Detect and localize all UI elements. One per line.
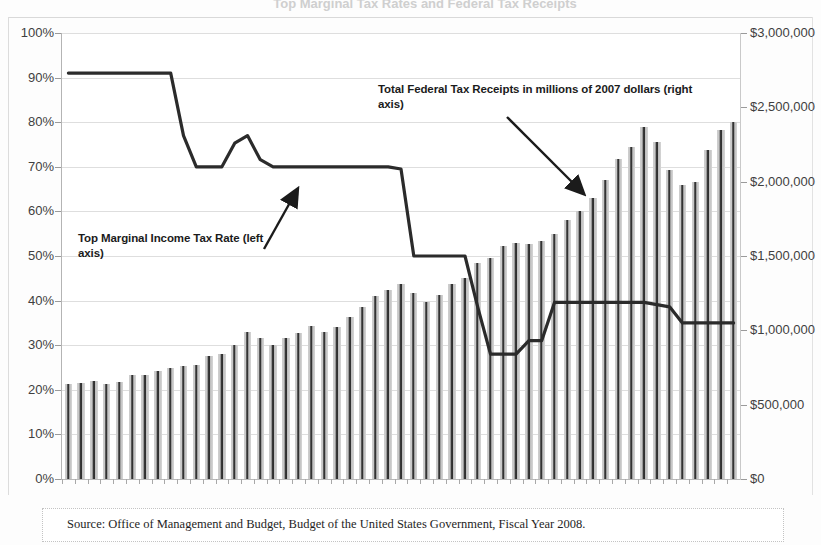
left-axis-tick (55, 345, 61, 346)
x-axis-tick (650, 479, 651, 484)
x-axis-tick (561, 479, 562, 484)
x-axis-tick (663, 479, 664, 484)
left-axis-tick-label: 30% (2, 337, 54, 352)
x-axis-tick (586, 479, 587, 484)
x-axis-tick (420, 479, 421, 484)
annotation-receipts: Total Federal Tax Receipts in millions o… (378, 82, 698, 112)
x-axis-tick (139, 479, 140, 484)
x-axis-tick (267, 479, 268, 484)
x-axis-tick (241, 479, 242, 484)
x-axis-tick (343, 479, 344, 484)
right-axis-tick-label: $0 (750, 471, 764, 486)
x-axis-tick (164, 479, 165, 484)
annotation-rate: Top Marginal Income Tax Rate (left axis) (78, 231, 278, 261)
left-axis-tick (55, 390, 61, 391)
left-axis-tick-label: 50% (2, 248, 54, 263)
x-axis-tick (331, 479, 332, 484)
left-axis-tick (55, 33, 61, 34)
left-axis-tick (55, 211, 61, 212)
x-axis-tick (369, 479, 370, 484)
left-axis-tick-label: 0% (2, 471, 54, 486)
right-axis-tick-label: $3,000,000 (750, 25, 815, 40)
left-axis-tick-label: 90% (2, 70, 54, 85)
left-axis-tick-label: 10% (2, 426, 54, 441)
right-axis-tick (741, 182, 747, 183)
x-axis-tick (203, 479, 204, 484)
left-axis-tick (55, 78, 61, 79)
x-axis-tick (702, 479, 703, 484)
x-axis-tick (625, 479, 626, 484)
x-axis-tick (88, 479, 89, 484)
x-axis-tick (254, 479, 255, 484)
x-axis-tick (100, 479, 101, 484)
x-axis-tick (510, 479, 511, 484)
x-axis-tick (75, 479, 76, 484)
left-axis-tick (55, 122, 61, 123)
x-axis-tick (318, 479, 319, 484)
left-axis-tick-label: 80% (2, 114, 54, 129)
right-axis-tick (741, 33, 747, 34)
x-axis-tick (497, 479, 498, 484)
left-axis-tick-label: 70% (2, 159, 54, 174)
x-axis-tick (382, 479, 383, 484)
left-axis-tick-label: 100% (2, 25, 54, 40)
x-axis-tick (714, 479, 715, 484)
x-axis-tick (62, 479, 63, 484)
x-axis-tick (612, 479, 613, 484)
x-axis-tick (228, 479, 229, 484)
x-axis-tick (279, 479, 280, 484)
right-axis-tick-label: $500,000 (750, 397, 804, 412)
right-axis-tick (741, 405, 747, 406)
x-axis-tick (459, 479, 460, 484)
x-axis-tick (305, 479, 306, 484)
x-axis-tick (638, 479, 639, 484)
left-axis-tick (55, 256, 61, 257)
left-axis-tick (55, 167, 61, 168)
x-axis-tick (727, 479, 728, 484)
page-edge-top (8, 17, 813, 18)
left-axis-tick-label: 40% (2, 293, 54, 308)
left-axis-tick (55, 434, 61, 435)
right-axis-tick (741, 479, 747, 480)
x-axis-tick (471, 479, 472, 484)
x-axis-tick (216, 479, 217, 484)
x-axis-tick (574, 479, 575, 484)
source-note: Source: Office of Management and Budget,… (67, 517, 585, 532)
x-axis-tick (484, 479, 485, 484)
x-axis-tick (689, 479, 690, 484)
right-axis-tick (741, 256, 747, 257)
x-axis-tick (152, 479, 153, 484)
right-axis-tick-label: $1,000,000 (750, 322, 815, 337)
chart-title-faded: Top Marginal Tax Rates and Federal Tax R… (250, 0, 600, 14)
left-axis-tick (55, 479, 61, 480)
left-axis-tick-label: 20% (2, 382, 54, 397)
right-axis-tick (741, 107, 747, 108)
x-axis-tick (113, 479, 114, 484)
marginal-rate-line (68, 73, 733, 354)
right-axis-tick-label: $2,000,000 (750, 174, 815, 189)
right-axis-tick (741, 330, 747, 331)
source-box: Source: Office of Management and Budget,… (42, 508, 784, 542)
x-axis-tick (407, 479, 408, 484)
x-axis-tick (395, 479, 396, 484)
x-axis-tick (126, 479, 127, 484)
x-axis-tick (599, 479, 600, 484)
right-axis-tick-label: $1,500,000 (750, 248, 815, 263)
left-axis-tick-label: 60% (2, 203, 54, 218)
left-axis-tick (55, 301, 61, 302)
right-axis-tick-label: $2,500,000 (750, 99, 815, 114)
x-axis-tick (292, 479, 293, 484)
chart-figure: Top Marginal Tax Rates and Federal Tax R… (0, 0, 821, 545)
x-axis-tick (190, 479, 191, 484)
x-axis-tick (356, 479, 357, 484)
x-axis-tick (433, 479, 434, 484)
x-axis-tick (676, 479, 677, 484)
x-axis-tick (523, 479, 524, 484)
x-axis-tick (535, 479, 536, 484)
x-axis-tick (177, 479, 178, 484)
x-axis-tick (548, 479, 549, 484)
x-axis-tick (446, 479, 447, 484)
